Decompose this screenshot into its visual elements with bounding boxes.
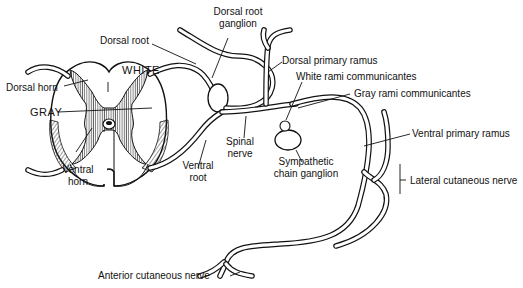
label-gray-matter: GRAY	[30, 106, 62, 118]
label-line: ganglion	[208, 18, 268, 30]
label-ventral-primary-ramus: Ventral primary ramus	[412, 128, 510, 140]
label-lateral-cutaneous-nerve: Lateral cutaneous nerve	[410, 175, 517, 187]
label-line: Sympathetic	[266, 156, 346, 168]
label-sympathetic-chain-ganglion: Sympathetic chain ganglion	[266, 156, 346, 180]
label-gray-rami-communicantes: Gray rami communicantes	[354, 88, 471, 100]
label-line: Ventral	[176, 160, 220, 172]
label-ventral-horn: Ventral horn	[56, 164, 100, 188]
label-dorsal-horn: Dorsal horn	[6, 82, 58, 94]
label-dorsal-primary-ramus: Dorsal primary ramus	[282, 55, 378, 67]
label-white-matter: WHITE	[122, 64, 160, 76]
label-line: horn	[56, 176, 100, 188]
label-spinal-nerve: Spinal nerve	[222, 136, 258, 160]
label-line: Dorsal root	[208, 6, 268, 18]
label-white-rami-communicantes: White rami communicantes	[296, 71, 417, 83]
label-dorsal-root-ganglion: Dorsal root ganglion	[208, 6, 268, 30]
label-anterior-cutaneous-nerve: Anterior cutaneous nerve	[98, 270, 210, 282]
spinal-nerve-diagram	[0, 0, 523, 288]
label-line: Ventral	[56, 164, 100, 176]
label-line: chain ganglion	[266, 168, 346, 180]
label-dorsal-root: Dorsal root	[100, 35, 149, 47]
sympathetic-chain-ganglion	[275, 121, 301, 150]
label-ventral-root: Ventral root	[176, 160, 220, 184]
dorsal-primary-ramus	[263, 30, 290, 104]
label-line: Spinal	[222, 136, 258, 148]
label-line: nerve	[222, 148, 258, 160]
ventral-primary-ramus	[220, 97, 369, 276]
label-line: root	[176, 172, 220, 184]
